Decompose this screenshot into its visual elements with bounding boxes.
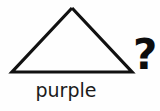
triangle-shape-path: [12, 8, 132, 72]
puzzle-canvas: purple ?: [0, 0, 160, 111]
shape-caption-label: purple: [0, 80, 132, 101]
question-mark-label: ?: [133, 34, 157, 76]
